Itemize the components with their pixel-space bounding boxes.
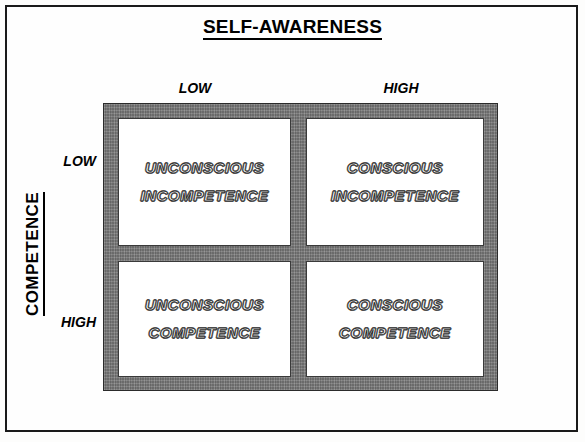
- quadrant-label-line1: UNCONSCIOUS: [145, 297, 264, 313]
- quadrant-conscious-incompetence[interactable]: CONSCIOUS INCOMPETENCE: [306, 118, 484, 246]
- quadrant-conscious-competence[interactable]: CONSCIOUS COMPETENCE: [306, 261, 484, 377]
- quadrant-unconscious-competence[interactable]: UNCONSCIOUS COMPETENCE: [118, 261, 291, 377]
- quadrant-label-line1: UNCONSCIOUS: [145, 160, 264, 176]
- competence-matrix: UNCONSCIOUS INCOMPETENCE CONSCIOUS INCOM…: [103, 103, 498, 391]
- quadrant-label-line2: INCOMPETENCE: [331, 188, 459, 204]
- row-label-high: HIGH: [50, 314, 96, 330]
- quadrant-label-line2: COMPETENCE: [149, 325, 261, 341]
- column-label-low: LOW: [160, 80, 230, 96]
- diagram-canvas: SELF-AWARENESS LOW HIGH LOW HIGH COMPETE…: [0, 0, 585, 442]
- y-axis-title: COMPETENCE: [23, 159, 43, 349]
- column-label-high: HIGH: [366, 80, 436, 96]
- quadrant-label-line2: INCOMPETENCE: [140, 188, 268, 204]
- y-axis-title-text: COMPETENCE: [23, 192, 45, 316]
- quadrant-label-line1: CONSCIOUS: [347, 160, 443, 176]
- page-title: SELF-AWARENESS: [0, 16, 585, 38]
- row-label-low: LOW: [50, 153, 96, 169]
- quadrant-unconscious-incompetence[interactable]: UNCONSCIOUS INCOMPETENCE: [118, 118, 291, 246]
- page-title-text: SELF-AWARENESS: [203, 16, 382, 40]
- quadrant-label-line1: CONSCIOUS: [347, 297, 443, 313]
- quadrant-label-line2: COMPETENCE: [339, 325, 451, 341]
